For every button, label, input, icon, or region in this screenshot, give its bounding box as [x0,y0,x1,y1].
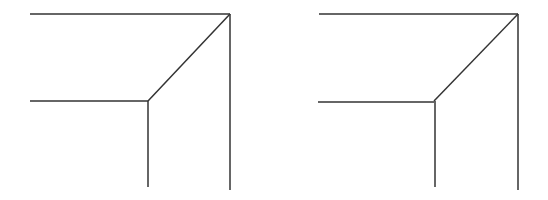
right-figure [318,14,518,190]
right-diagonal-edge [434,14,518,101]
left-figure [30,14,230,190]
drawing-canvas [0,0,548,200]
left-diagonal-edge [148,14,230,101]
figure-pair-illustration [0,0,548,200]
